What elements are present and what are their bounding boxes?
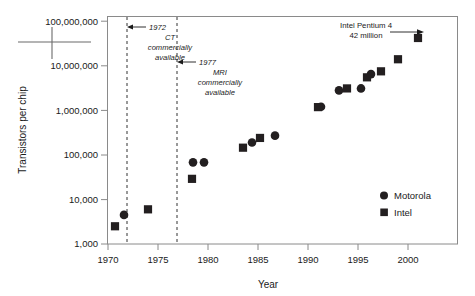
- y-tick-label-10000: 10,000: [69, 194, 98, 205]
- y-tick-label-1000000: 1,000,000: [56, 105, 98, 116]
- data-point-motorola-2: [200, 158, 209, 167]
- y-axis-title: Transistors per chip: [17, 86, 28, 174]
- x-axis-ticks: [108, 244, 408, 250]
- data-point-intel-1: [144, 205, 152, 213]
- data-point-intel-2: [188, 175, 196, 183]
- crosshair-artifact: [18, 27, 91, 59]
- x-tick-label-2000: 2000: [397, 254, 418, 265]
- y-tick-label-100000: 100,000: [64, 149, 98, 160]
- x-tick-label-1990: 1990: [297, 254, 318, 265]
- annotation-ct-line1: 1972: [149, 23, 167, 32]
- y-tick-label-1000: 1,000: [74, 238, 98, 249]
- annotation-ct-line2: CT: [165, 33, 176, 42]
- data-point-intel-10: [414, 34, 422, 42]
- y-tick-label-10000000: 10,000,000: [50, 60, 98, 71]
- data-point-motorola-3: [248, 138, 257, 147]
- chart-canvas: 100,000,000 10,000,000 1,000,000 100,000…: [0, 0, 475, 296]
- x-tick-label-1985: 1985: [247, 254, 268, 265]
- data-point-motorola-4: [271, 131, 280, 140]
- annotation-ct-line3: commercially: [148, 43, 194, 52]
- annotation-pentium4-line1: Intel Pentium 4: [340, 21, 393, 30]
- legend-label-motorola: Motorola: [394, 190, 432, 201]
- data-point-intel-8: [377, 67, 385, 75]
- data-point-intel-9: [394, 55, 402, 63]
- data-point-intel-7: [363, 73, 371, 81]
- data-point-motorola-1: [189, 158, 198, 167]
- data-point-motorola-7: [357, 84, 366, 93]
- annotation-mri-line3: commercially: [198, 78, 244, 87]
- x-tick-label-1995: 1995: [347, 254, 368, 265]
- annotation-pentium4-line2: 42 million: [350, 31, 383, 40]
- legend-marker-intel: [380, 209, 388, 217]
- data-point-intel-4: [256, 134, 264, 142]
- x-tick-label-1980: 1980: [197, 254, 218, 265]
- data-point-intel-6: [343, 84, 351, 92]
- y-axis-ticks: [101, 21, 108, 244]
- y-tick-label-100000000: 100,000,000: [45, 16, 98, 27]
- x-tick-label-1975: 1975: [147, 254, 168, 265]
- data-point-motorola-0: [120, 211, 129, 220]
- data-point-intel-3: [239, 144, 247, 152]
- data-point-intel-5: [314, 103, 322, 111]
- x-axis-title: Year: [258, 279, 279, 290]
- annotation-mri-line4: available: [205, 88, 235, 97]
- transistors-per-chip-chart: 100,000,000 10,000,000 1,000,000 100,000…: [0, 0, 475, 296]
- legend-marker-motorola: [380, 192, 388, 200]
- data-point-intel-0: [111, 222, 119, 230]
- annotation-mri-line2: MRI: [213, 68, 228, 77]
- annotation-mri-line1: 1977: [199, 58, 217, 67]
- data-point-motorola-6: [335, 86, 344, 95]
- legend-label-intel: Intel: [394, 207, 412, 218]
- x-tick-label-1970: 1970: [97, 254, 118, 265]
